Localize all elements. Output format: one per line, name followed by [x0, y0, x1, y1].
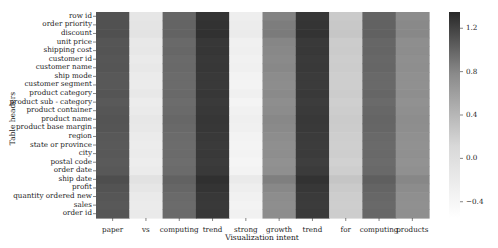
heatmap-cell [329, 12, 363, 21]
heatmap-cell [362, 124, 396, 133]
heatmap-cell [296, 21, 330, 30]
y-tick-label: region [68, 132, 92, 140]
heatmap-cell [163, 98, 197, 107]
heatmap-cell [229, 149, 263, 158]
heatmap-cell [129, 132, 163, 141]
heatmap-cell [129, 209, 163, 218]
heatmap-cell [129, 149, 163, 158]
heatmap-cell [263, 55, 297, 64]
heatmap-cell [329, 132, 363, 141]
heatmap-cell [296, 124, 330, 133]
heatmap-cell [329, 106, 363, 115]
y-tick-label: product container [26, 106, 92, 114]
heatmap-cell [163, 46, 197, 55]
heatmap-cell [362, 81, 396, 90]
heatmap-cell [296, 38, 330, 47]
heatmap-cell [129, 72, 163, 81]
heatmap-cell [396, 98, 430, 107]
heatmap-cell [362, 184, 396, 193]
heatmap-cell [229, 184, 263, 193]
heatmap-cell [196, 29, 230, 38]
heatmap-cell [129, 184, 163, 193]
heatmap-cell [196, 209, 230, 218]
y-tick-label: discount [61, 29, 92, 37]
heatmap-cell [96, 55, 130, 64]
heatmap-cell [96, 184, 130, 193]
heatmap-cell [96, 72, 130, 81]
x-tick-label: for [341, 225, 351, 234]
heatmap-cell [96, 158, 130, 167]
heatmap-cell [96, 12, 130, 21]
x-tick-label: computing [360, 225, 399, 234]
heatmap-cell [96, 149, 130, 158]
heatmap-cell [396, 192, 430, 201]
colorbar-tick-label: 1.2 [466, 23, 477, 32]
heatmap-cell [362, 64, 396, 73]
heatmap-cell [96, 81, 130, 90]
heatmap-cell [296, 184, 330, 193]
x-tick-label: vs [142, 225, 150, 234]
heatmap-cell [229, 106, 263, 115]
heatmap-cell [96, 175, 130, 184]
heatmap-cell [329, 64, 363, 73]
heatmap-cell [263, 72, 297, 81]
colorbar-tick-label: 0.0 [466, 153, 477, 162]
heatmap-cell [263, 81, 297, 90]
heatmap-cell [296, 158, 330, 167]
heatmap-cell [329, 38, 363, 47]
heatmap-cell [96, 124, 130, 133]
heatmap-cell [96, 115, 130, 124]
heatmap-cell [129, 29, 163, 38]
heatmap-cell [396, 209, 430, 218]
heatmap-cell [129, 55, 163, 64]
heatmap-cell [263, 106, 297, 115]
heatmap-cell [296, 98, 330, 107]
heatmap-cell [96, 132, 130, 141]
heatmap-cell [196, 192, 230, 201]
heatmap-cell [296, 81, 330, 90]
heatmap-cell [396, 124, 430, 133]
heatmap-cell [129, 89, 163, 98]
heatmap-cell [362, 89, 396, 98]
heatmap-cell [229, 98, 263, 107]
heatmap-cell [196, 81, 230, 90]
heatmap-cell [163, 192, 197, 201]
heatmap-cell [129, 46, 163, 55]
heatmap-cell [329, 184, 363, 193]
heatmap-cell [329, 55, 363, 64]
heatmap-cell [129, 98, 163, 107]
heatmap-cell [329, 158, 363, 167]
heatmap-cell [96, 201, 130, 210]
heatmap-cell [163, 184, 197, 193]
heatmap-cell [362, 46, 396, 55]
heatmap-cell [96, 209, 130, 218]
heatmap-cell [362, 175, 396, 184]
heatmap-cell [263, 124, 297, 133]
heatmap-cell [329, 209, 363, 218]
heatmap-cell [96, 38, 130, 47]
heatmap-cell [329, 98, 363, 107]
heatmap-cell [129, 167, 163, 176]
heatmap-cell [362, 149, 396, 158]
heatmap-cell [229, 158, 263, 167]
heatmap-cell [329, 124, 363, 133]
heatmap-cell [296, 72, 330, 81]
heatmap-cell [163, 158, 197, 167]
x-tick-label: computing [160, 225, 199, 234]
heatmap-cell [329, 46, 363, 55]
heatmap-cell [229, 167, 263, 176]
heatmap-cell [396, 167, 430, 176]
heatmap-cell [396, 184, 430, 193]
colorbar-tick-label: 0.4 [466, 110, 477, 119]
x-tick-label: paper [102, 225, 123, 234]
heatmap-cell [196, 141, 230, 150]
heatmap-cell [329, 201, 363, 210]
heatmap-cell [129, 106, 163, 115]
heatmap-cell [196, 21, 230, 30]
heatmap-cell [196, 98, 230, 107]
y-axis-label: Table headers [8, 92, 17, 145]
heatmap-cell [296, 192, 330, 201]
heatmap-cell [129, 12, 163, 21]
heatmap-cell [129, 124, 163, 133]
heatmap-cell [96, 29, 130, 38]
